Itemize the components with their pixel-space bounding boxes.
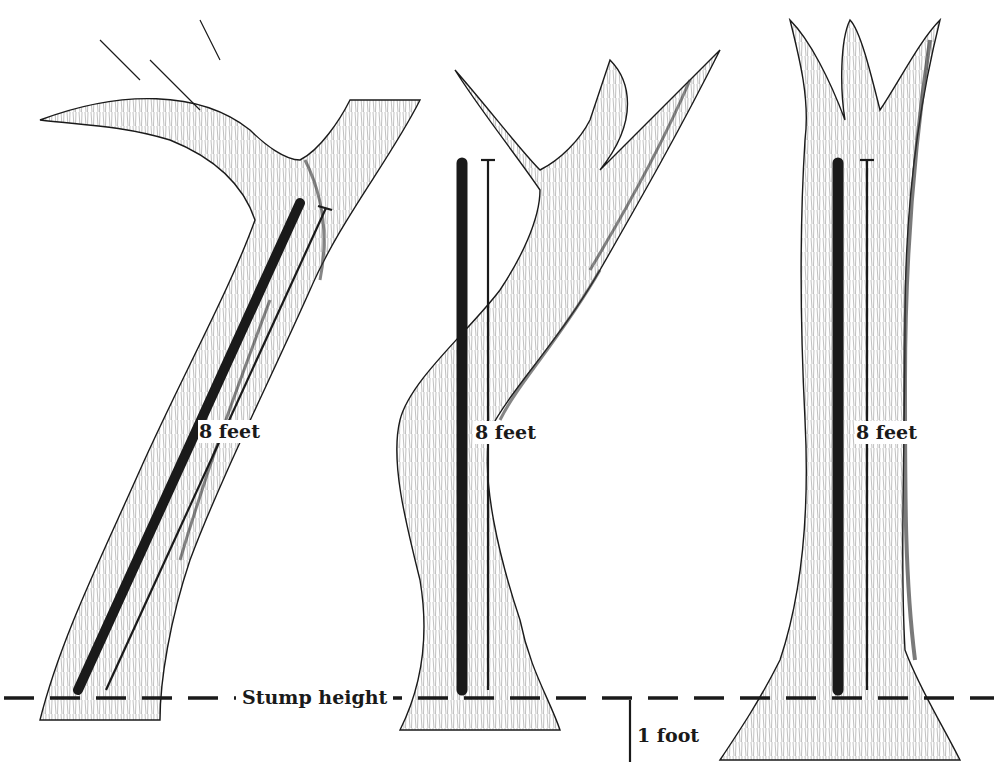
scale-label: 1 foot xyxy=(637,726,699,745)
measure-label-crooked: 8 feet xyxy=(474,421,537,444)
tree-crooked xyxy=(397,50,720,730)
measure-label-straight: 8 feet xyxy=(855,421,918,444)
tree-leaning xyxy=(40,20,420,720)
measure-label-leaning: 8 feet xyxy=(198,420,261,443)
tree-measurement-diagram: 8 feet 8 feet 8 feet Stump height 1 foot xyxy=(0,0,994,773)
stump-height-label: Stump height xyxy=(236,686,393,709)
diagram-canvas xyxy=(0,0,994,773)
